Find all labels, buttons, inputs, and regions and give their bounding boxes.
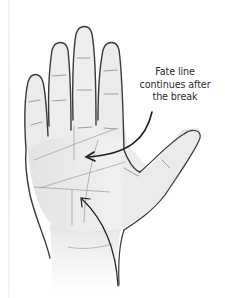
wrist [50,225,122,290]
index-finger [97,43,122,141]
little-finger [25,75,49,151]
caption-line-1: Fate line [136,66,214,79]
thumb [122,130,200,228]
wrist-outline-right [119,230,124,285]
caption-line-3: the break [136,91,214,104]
palmistry-diagram: Fate line continues after the break [0,0,225,298]
annotation-caption: Fate line continues after the break [136,66,214,104]
hand-illustration [0,0,225,298]
caption-line-2: continues after [136,79,214,92]
